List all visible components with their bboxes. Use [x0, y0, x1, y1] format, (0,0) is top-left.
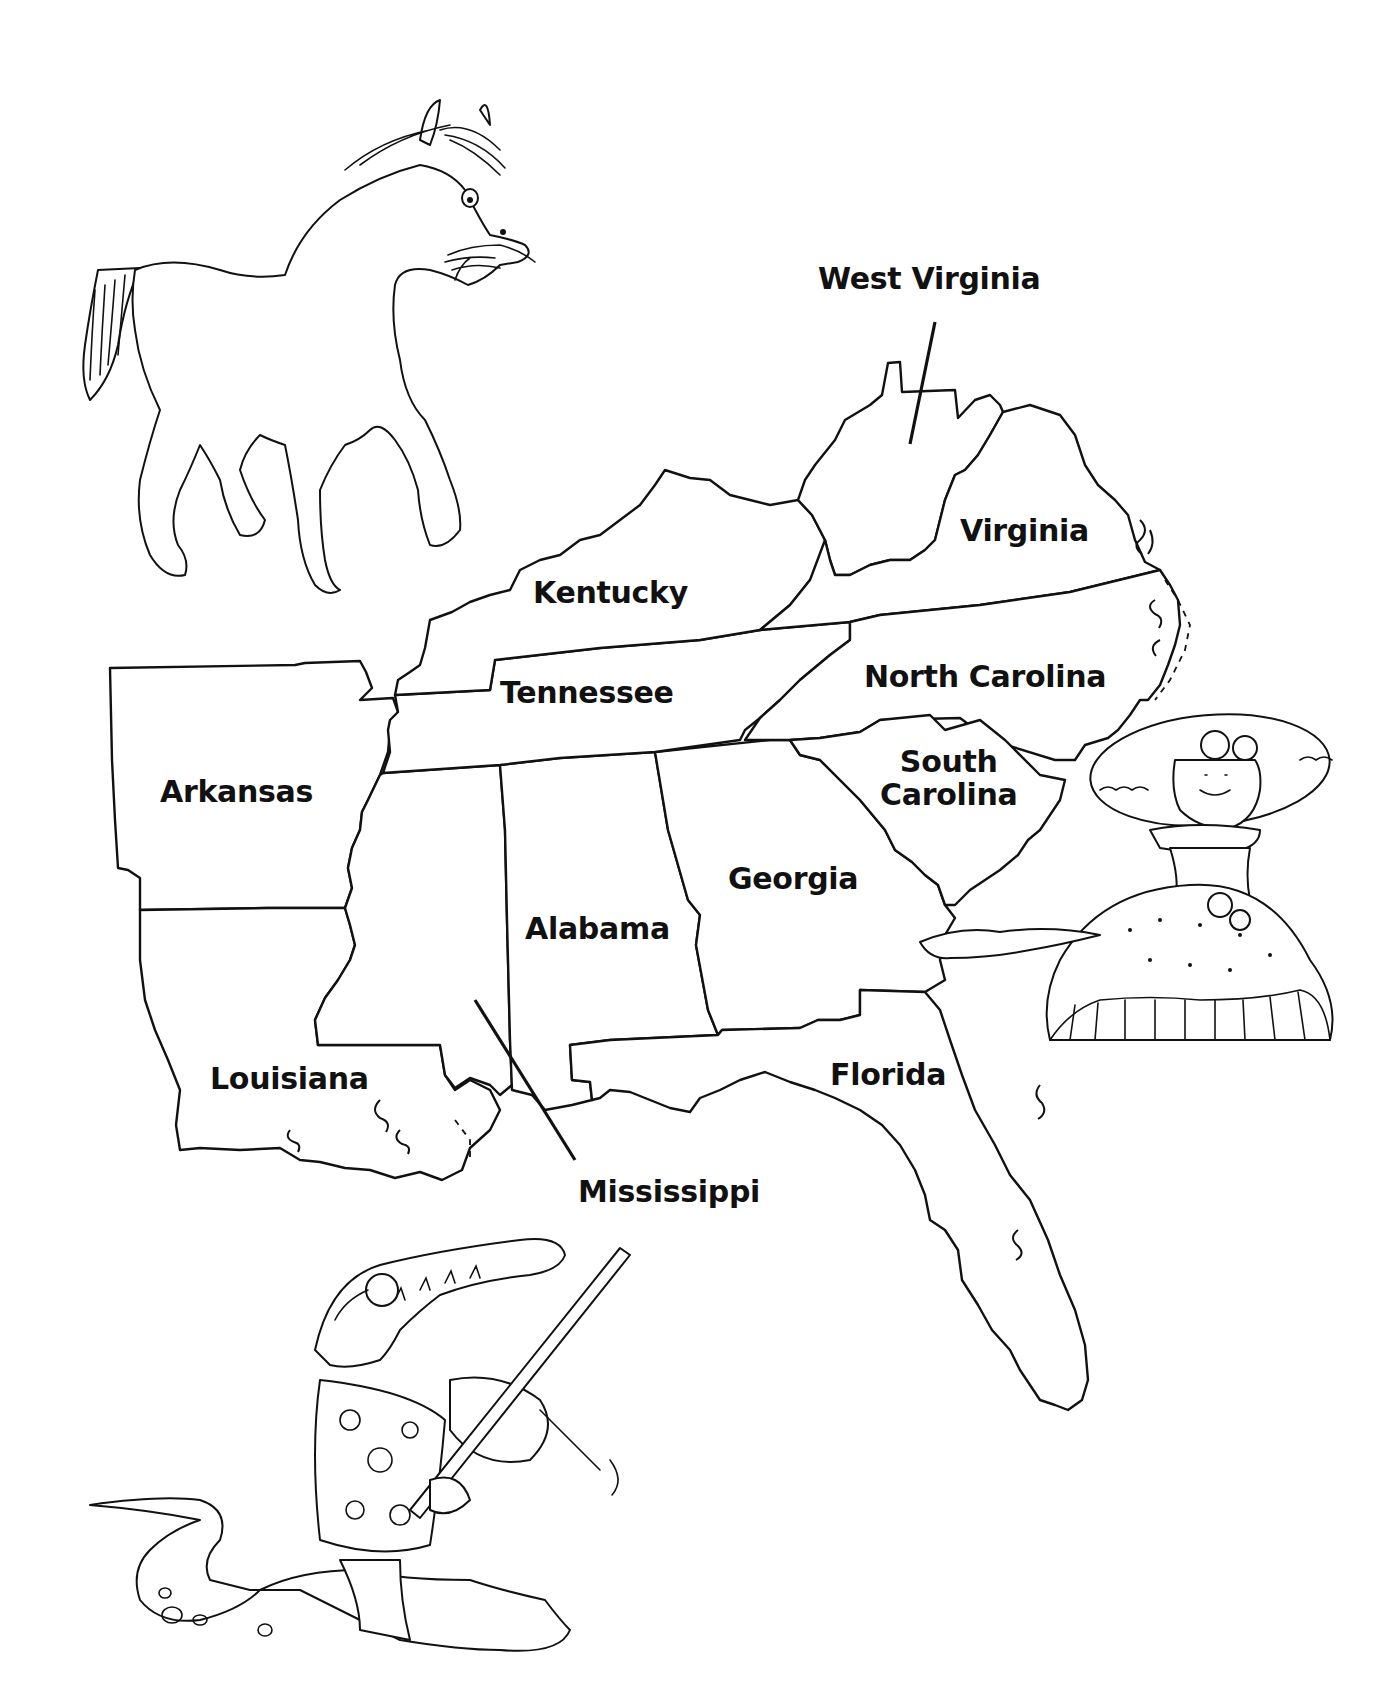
label-south-carolina-line1: South	[880, 745, 1017, 778]
label-south-carolina: South Carolina	[880, 745, 1017, 811]
label-georgia: Georgia	[728, 862, 858, 895]
label-florida: Florida	[830, 1058, 946, 1091]
label-kentucky: Kentucky	[533, 576, 688, 609]
label-tennessee: Tennessee	[500, 676, 674, 709]
southeast-map	[0, 0, 1392, 1695]
label-virginia: Virginia	[960, 514, 1089, 547]
label-arkansas: Arkansas	[160, 775, 313, 808]
label-alabama: Alabama	[525, 912, 670, 945]
horse-illustration	[83, 100, 535, 593]
label-louisiana: Louisiana	[210, 1062, 369, 1095]
alligator-illustration	[90, 1239, 630, 1651]
label-west-virginia: West Virginia	[818, 262, 1041, 295]
label-north-carolina: North Carolina	[864, 660, 1106, 693]
label-mississippi: Mississippi	[578, 1175, 760, 1208]
label-south-carolina-line2: Carolina	[880, 778, 1017, 811]
